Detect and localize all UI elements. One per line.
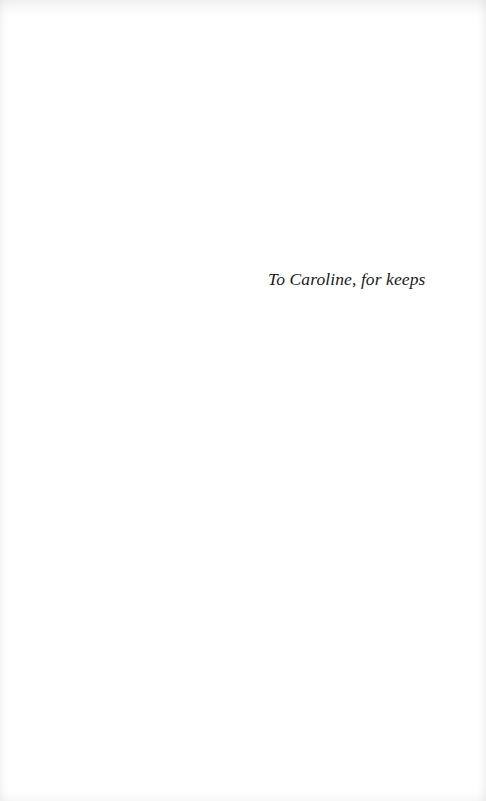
- book-page: To Caroline, for keeps: [0, 0, 486, 801]
- dedication-text: To Caroline, for keeps: [268, 268, 425, 290]
